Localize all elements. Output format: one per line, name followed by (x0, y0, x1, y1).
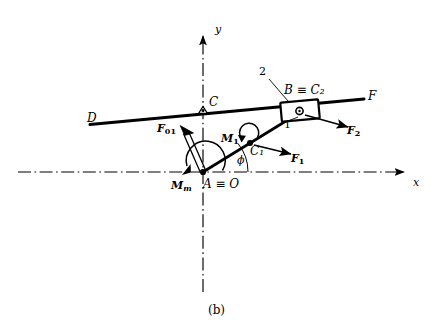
link-label-2: 2 (259, 66, 266, 77)
point-label-C1: C₁ (250, 145, 264, 157)
force-label-F01: F01 (157, 123, 176, 135)
moment-M1-symbol: M (221, 132, 233, 145)
force-F01-arrowhead (180, 126, 193, 136)
force-label-F1: F1 (291, 153, 304, 165)
moment-M1-subscript: 1 (233, 136, 239, 146)
figure-caption: (b) (208, 303, 225, 317)
point-label-F: F (368, 90, 376, 102)
figure-container: y x D F C B ≡ C₂ A ≡ O C₁ 2 1 ϕ F01 F1 F… (0, 0, 431, 335)
force-F2-arrow (305, 115, 348, 127)
force-F01-symbol: F (157, 122, 165, 135)
force-F1-symbol: F (291, 152, 299, 165)
moment-Mm-symbol: M (171, 179, 183, 192)
point-label-A-origin: A ≡ O (203, 178, 239, 190)
moment-Mm-subscript: m (183, 183, 191, 193)
moment-Mm-arc-path (186, 141, 225, 170)
point-label-B: B ≡ C₂ (284, 84, 325, 96)
force-F1-subscript: 1 (299, 156, 305, 166)
slider-pin-dot (298, 110, 300, 112)
link-label-1: 1 (284, 119, 291, 130)
force-F01-arrow (180, 126, 205, 173)
y-axis-label: y (215, 24, 221, 35)
moment-label-M1: M1 (221, 133, 239, 145)
moment-M1-arrowhead (238, 135, 246, 142)
mechanism-free-body-diagram (0, 0, 431, 335)
force-F2-symbol: F (347, 124, 355, 137)
x-axis-label: x (413, 177, 419, 188)
angle-label-phi: ϕ (237, 155, 245, 166)
moment-label-Mm: Mm (171, 180, 192, 192)
point-label-D: D (87, 112, 97, 124)
pivot-c-dot (202, 109, 205, 112)
force-F01-subscript: 01 (165, 126, 176, 136)
force-F2-subscript: 2 (355, 128, 361, 138)
point-label-C: C (209, 96, 218, 108)
force-label-F2: F2 (347, 125, 360, 137)
